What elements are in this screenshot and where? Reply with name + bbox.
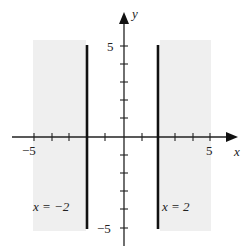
line-label-2: x = 2 [161, 199, 190, 214]
x-tick-label-5: 5 [206, 143, 213, 158]
line-label-minus-2: x = −2 [32, 199, 70, 214]
x-axis-arrow-icon [226, 132, 238, 142]
y-axis-label: y [130, 6, 138, 21]
y-tick-label-minus-5: −5 [97, 221, 111, 236]
y-tick-label-5: 5 [107, 39, 114, 54]
x-tick-label-minus-5: −5 [22, 143, 36, 158]
graph-canvas: y x 5 −5 −5 5 x = −2 x = 2 [0, 0, 250, 252]
x-axis-label: x [233, 144, 240, 159]
y-axis-arrow-icon [119, 12, 129, 24]
